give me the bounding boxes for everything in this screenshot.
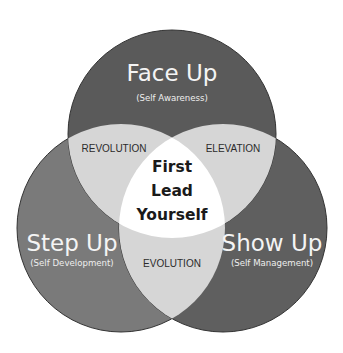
show-up-subtitle: (Self Management)	[231, 258, 313, 268]
show-up-title: Show Up	[222, 230, 323, 256]
center-line-1: First	[152, 158, 193, 176]
elevation-label: ELEVATION	[206, 143, 261, 154]
center-line-2: Lead	[151, 182, 193, 200]
venn-diagram: Face Up (Self Awareness) Step Up (Self D…	[0, 0, 343, 353]
center-line-3: Yourself	[136, 206, 208, 224]
evolution-label: EVOLUTION	[143, 258, 201, 269]
face-up-title: Face Up	[127, 60, 218, 86]
revolution-label: REVOLUTION	[81, 143, 146, 154]
step-up-subtitle: (Self Development)	[30, 258, 113, 268]
step-up-title: Step Up	[26, 230, 117, 256]
face-up-subtitle: (Self Awareness)	[136, 93, 208, 103]
